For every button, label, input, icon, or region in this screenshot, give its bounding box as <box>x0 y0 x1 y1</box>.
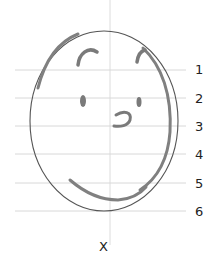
head-outline <box>30 31 178 211</box>
axis-label-x: X <box>99 240 108 253</box>
guide-label-1: 1 <box>195 63 203 76</box>
guide-label-4: 4 <box>195 148 203 161</box>
head-sketch-stroke-right <box>140 48 170 190</box>
guide-label-2: 2 <box>195 92 203 105</box>
guide-label-3: 3 <box>195 120 203 133</box>
guide-label-6: 6 <box>195 205 203 218</box>
horizontal-guides <box>15 70 186 211</box>
mouth-mark <box>114 112 130 126</box>
head-sketch-stroke-left <box>38 34 78 88</box>
right-eye <box>137 97 142 107</box>
guide-label-5: 5 <box>195 177 203 190</box>
right-brow-arc <box>137 50 145 62</box>
face-sketch-diagram <box>0 0 212 265</box>
left-brow-arc <box>78 50 97 65</box>
left-eye <box>80 95 86 107</box>
